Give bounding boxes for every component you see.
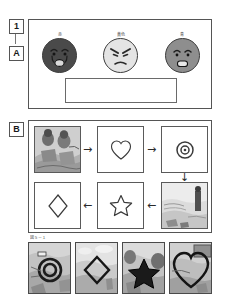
grid-shape-star[interactable] — [97, 182, 144, 229]
marker-section-b: B — [9, 122, 24, 137]
arrow-right-1: → — [83, 144, 92, 155]
arrow-left-2: ← — [83, 200, 92, 211]
angry-face-label: 黄色 — [117, 32, 125, 37]
thumb-star[interactable] — [122, 242, 165, 294]
shape-flow-grid: → → ↓ — [34, 126, 208, 229]
filmstrip — [28, 242, 212, 294]
emotion-item-happy[interactable]: 青 — [161, 32, 203, 73]
heart-icon — [109, 138, 133, 162]
arrow-right-2: → — [147, 144, 156, 155]
thumb-target[interactable] — [28, 242, 71, 294]
grid-shape-heart[interactable] — [97, 126, 144, 173]
target-icon — [173, 138, 197, 162]
emotion-item-sad[interactable]: 赤 — [39, 32, 81, 73]
happy-face-icon[interactable] — [165, 38, 200, 73]
worksheet-page: 1 A B 赤 — [0, 0, 228, 304]
angry-face-icon[interactable] — [103, 38, 138, 73]
sad-face-icon[interactable] — [42, 38, 77, 73]
grid-shape-target[interactable] — [161, 126, 208, 173]
happy-face-label: 青 — [180, 32, 184, 37]
marker-question-number: 1 — [9, 19, 24, 34]
emotion-item-angry[interactable]: 黄色 — [100, 32, 142, 73]
grid-shape-diamond[interactable] — [34, 182, 81, 229]
emotion-face-row: 赤 黄色 — [29, 25, 213, 73]
filmstrip-caption: 図５－１ — [30, 235, 78, 241]
answer-input-box[interactable] — [65, 78, 177, 103]
grid-photo-scene-2[interactable] — [161, 182, 208, 229]
thumb-heart[interactable] — [169, 242, 212, 294]
marker-connector — [15, 34, 16, 44]
arrow-left-1: ← — [147, 200, 156, 211]
sad-face-label: 赤 — [58, 32, 62, 37]
section-a-panel: 赤 黄色 — [28, 19, 212, 109]
thumb-diamond[interactable] — [75, 242, 118, 294]
diamond-icon — [46, 193, 70, 219]
grid-photo-scene-1[interactable] — [34, 126, 81, 173]
star-icon — [108, 193, 134, 219]
section-b-panel: → → ↓ — [28, 120, 212, 233]
marker-section-a: A — [9, 46, 24, 61]
